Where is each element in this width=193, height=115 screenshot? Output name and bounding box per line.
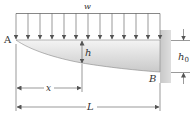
fixed-support-wall <box>160 30 171 83</box>
depth-h-label: h <box>85 47 91 58</box>
point-label-b: B <box>148 73 156 84</box>
distributed-load <box>16 14 160 40</box>
load-label-w: w <box>84 2 91 11</box>
depth-h0-subscript: 0 <box>184 56 188 64</box>
point-label-a: A <box>3 34 12 45</box>
length-l-label: L <box>86 101 94 112</box>
tapered-cantilever-diagram: w A B h h0 x L <box>0 0 193 115</box>
distance-x-label: x <box>46 83 51 93</box>
depth-h0-label: h0 <box>178 51 189 64</box>
load-arrows <box>16 14 160 40</box>
